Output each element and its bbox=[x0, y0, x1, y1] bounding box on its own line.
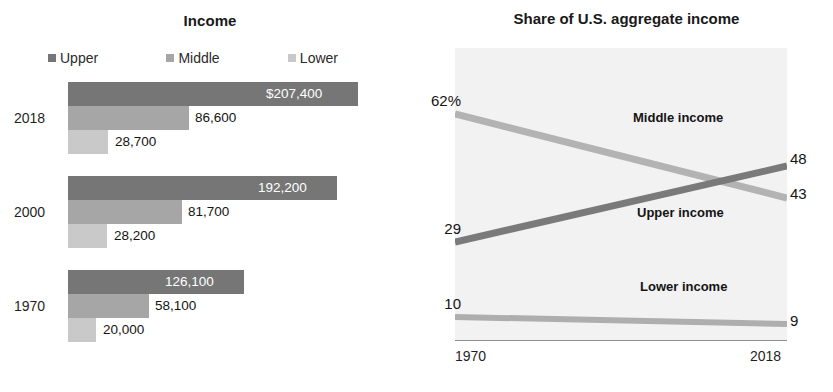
axis-label-middle-start: 62% bbox=[431, 92, 461, 109]
legend-swatch-middle bbox=[166, 54, 174, 62]
series-label-middle-income: Middle income bbox=[633, 110, 723, 125]
bar-2018-lower bbox=[68, 130, 108, 154]
line-lower-income bbox=[455, 317, 787, 324]
figure-root: Income Upper Middle Lower 2018 $207, bbox=[0, 0, 833, 392]
bar-value-1970-upper: 126,100 bbox=[165, 270, 214, 294]
line-chart-title: Share of U.S. aggregate income bbox=[420, 10, 833, 27]
line-upper-income bbox=[455, 166, 787, 242]
bar-2018-middle bbox=[68, 106, 189, 130]
axis-label-upper-start: 29 bbox=[444, 220, 461, 237]
line-series-svg bbox=[455, 48, 787, 340]
bar-row-2018-upper: $207,400 bbox=[0, 82, 420, 106]
bar-group-2000: 2000 192,200 81,700 28,200 bbox=[0, 176, 420, 248]
bar-2000-lower bbox=[68, 224, 107, 248]
legend-item-middle: Middle bbox=[166, 50, 219, 66]
legend-label-upper: Upper bbox=[60, 50, 98, 66]
line-plot-area: Middle income Upper income Lower income bbox=[455, 48, 787, 340]
bar-row-1970-upper: 126,100 bbox=[0, 270, 420, 294]
bar-plot-area: 2018 $207,400 86,600 28,700 2000 bbox=[0, 82, 420, 372]
bar-row-2000-lower: 28,200 bbox=[0, 224, 420, 248]
line-chart-baseline bbox=[455, 340, 787, 341]
legend-label-middle: Middle bbox=[178, 50, 219, 66]
bar-1970-middle bbox=[68, 294, 149, 318]
bar-row-1970-lower: 20,000 bbox=[0, 318, 420, 342]
bar-value-2018-middle: 86,600 bbox=[195, 106, 236, 130]
series-label-upper-income: Upper income bbox=[637, 205, 724, 220]
bar-2000-middle bbox=[68, 200, 182, 224]
bar-1970-lower bbox=[68, 318, 96, 342]
legend-item-upper: Upper bbox=[48, 50, 98, 66]
bar-row-1970-middle: 58,100 bbox=[0, 294, 420, 318]
bar-value-2000-lower: 28,200 bbox=[114, 224, 155, 248]
bar-value-2000-upper: 192,200 bbox=[258, 176, 307, 200]
series-label-lower-income: Lower income bbox=[640, 279, 727, 294]
bar-value-1970-lower: 20,000 bbox=[103, 318, 144, 342]
line-middle-income bbox=[455, 114, 787, 198]
axis-label-lower-start: 10 bbox=[444, 295, 461, 312]
legend-swatch-upper bbox=[48, 54, 56, 62]
bar-row-2000-middle: 81,700 bbox=[0, 200, 420, 224]
bar-group-2018: 2018 $207,400 86,600 28,700 bbox=[0, 82, 420, 154]
bar-value-2018-upper: $207,400 bbox=[266, 82, 322, 106]
legend-item-lower: Lower bbox=[288, 50, 338, 66]
bar-value-1970-middle: 58,100 bbox=[155, 294, 196, 318]
bar-value-2018-lower: 28,700 bbox=[115, 130, 156, 154]
bar-row-2018-lower: 28,700 bbox=[0, 130, 420, 154]
income-bar-chart: Income Upper Middle Lower 2018 $207, bbox=[0, 0, 420, 392]
x-tick-1970: 1970 bbox=[455, 348, 486, 364]
bar-chart-title: Income bbox=[0, 12, 420, 29]
bar-row-2000-upper: 192,200 bbox=[0, 176, 420, 200]
bar-group-1970: 1970 126,100 58,100 20,000 bbox=[0, 270, 420, 342]
bar-chart-legend: Upper Middle Lower bbox=[48, 48, 338, 68]
axis-label-middle-end: 43 bbox=[790, 185, 807, 202]
legend-swatch-lower bbox=[288, 54, 296, 62]
bar-row-2018-middle: 86,600 bbox=[0, 106, 420, 130]
bar-value-2000-middle: 81,700 bbox=[188, 200, 229, 224]
axis-label-lower-end: 9 bbox=[790, 312, 798, 329]
income-share-line-chart: Share of U.S. aggregate income Middle in… bbox=[420, 0, 833, 392]
axis-label-upper-end: 48 bbox=[790, 150, 807, 167]
x-tick-2018: 2018 bbox=[750, 348, 781, 364]
legend-label-lower: Lower bbox=[300, 50, 338, 66]
bar-1970-upper bbox=[68, 270, 244, 294]
